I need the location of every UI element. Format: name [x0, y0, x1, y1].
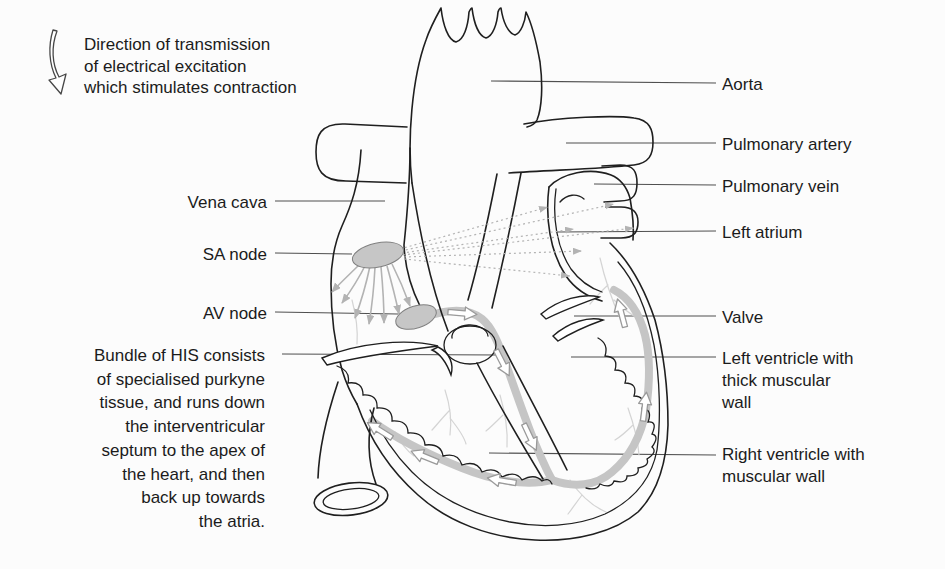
label-valve: Valve: [722, 307, 763, 329]
valve-ring: [444, 326, 496, 364]
sa-transmission-rays: [400, 204, 634, 276]
av-node-ellipse: [393, 300, 440, 334]
label-left-ventricle: Left ventricle withthick muscularwall: [722, 348, 853, 414]
label-pulmonary-artery: Pulmonary artery: [722, 134, 851, 156]
sa-node-ellipse: [350, 238, 406, 272]
pulmonary-vein-stub-1: [602, 165, 637, 202]
tricuspid-valve-flap-2: [432, 347, 452, 375]
bundle-of-his-caption: Bundle of HIS consistsof specialised pur…: [0, 344, 265, 534]
aorta-outline: [410, 8, 542, 183]
label-aorta: Aorta: [722, 74, 763, 96]
sa-radiating-arrows: [332, 262, 410, 324]
pulmonary-trunk: [468, 173, 521, 308]
valve-ring-inner: [452, 325, 488, 338]
left-atrium-curl: [560, 195, 584, 202]
label-sa-node: SA node: [0, 244, 267, 265]
label-av-node: AV node: [0, 303, 267, 324]
label-left-atrium: Left atrium: [722, 222, 802, 244]
label-pulmonary-vein: Pulmonary vein: [722, 176, 839, 198]
heart-outline: [312, 8, 668, 540]
ivc-mouth-inner: [322, 486, 380, 513]
inferior-vena-cava: [318, 382, 376, 484]
vena-cava-right-wall: [404, 148, 420, 306]
heart-diagram-page: Direction of transmissionof electrical e…: [0, 0, 945, 569]
label-right-ventricle: Right ventricle withmuscular wall: [722, 444, 865, 488]
direction-note: Direction of transmissionof electrical e…: [84, 34, 297, 99]
left-atrium-hood: [549, 171, 633, 240]
label-vena-cava: Vena cava: [0, 192, 267, 213]
mitral-valve-flap-2: [553, 319, 603, 341]
left-atrium-wall-inner: [555, 189, 602, 292]
direction-arrow-icon: [49, 30, 66, 94]
tricuspid-valve-flap: [322, 342, 438, 365]
left-atrium-wall-outer: [548, 187, 602, 301]
